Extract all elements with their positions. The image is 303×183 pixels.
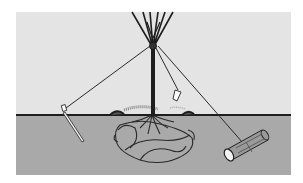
tree-staking-illustration	[0, 0, 303, 183]
illustration-frame	[0, 0, 303, 183]
